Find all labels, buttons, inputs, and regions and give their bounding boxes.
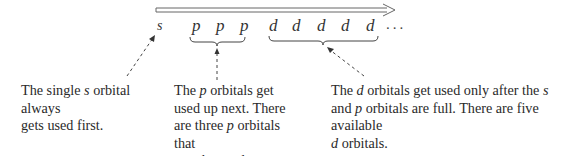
caption-p-line-1: The p orbitals get (174, 82, 304, 100)
caption-s: The single s orbital always gets used fi… (21, 82, 171, 135)
caption-d: The d orbitals get used only after the s… (331, 82, 587, 152)
orbital-p-1: p (192, 16, 201, 36)
orbital-p-2: p (216, 16, 225, 36)
caption-s-line-1: The single s orbital always (21, 82, 171, 117)
caption-d-line-2: and p orbitals are full. There are five … (331, 100, 587, 135)
ellipsis: ... (386, 16, 406, 33)
caption-d-line-1: The d orbitals get used only after the s (331, 82, 587, 100)
s-pointer-arrow-icon (127, 35, 155, 76)
orbital-filling-diagram: s p p p d d d d d ... The single s orbit… (0, 0, 587, 156)
orbital-p-3: p (240, 16, 249, 36)
direction-arrow-icon (156, 4, 395, 16)
orbital-s: s (157, 16, 162, 36)
caption-p-line-4: may be used. (174, 152, 304, 156)
caption-p-line-3: are three p orbitals that (174, 117, 304, 152)
p-pointer-arrow-icon (215, 48, 220, 80)
p-group-brace (190, 37, 245, 46)
d-group-brace (269, 36, 378, 45)
orbital-d-2: d (292, 16, 301, 36)
orbital-d-5: d (366, 16, 375, 36)
caption-s-line-2: gets used first. (21, 117, 171, 135)
caption-p-line-2: used up next. There (174, 100, 304, 118)
d-pointer-arrow-icon (327, 47, 364, 76)
orbital-d-1: d (269, 16, 278, 36)
caption-d-line-3: d orbitals. (331, 135, 587, 153)
caption-p: The p orbitals get used up next. There a… (174, 82, 304, 156)
orbital-d-3: d (317, 16, 326, 36)
orbital-d-4: d (341, 16, 350, 36)
